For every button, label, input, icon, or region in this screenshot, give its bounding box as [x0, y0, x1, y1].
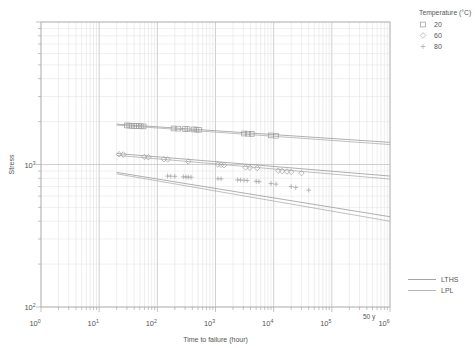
- data-point-diamond: [420, 33, 426, 39]
- y-tick-label: 103: [24, 160, 35, 170]
- y-axis-title: Stress: [8, 154, 15, 174]
- y-tick-label: 102: [24, 302, 35, 312]
- legend-title: Temperature (°C): [419, 9, 471, 17]
- legend-item-80[interactable]: 80: [434, 43, 442, 50]
- legend-item-60[interactable]: 60: [434, 32, 442, 39]
- series-20: [125, 123, 279, 138]
- chart-root: 100101102103104105106102103Time to failu…: [0, 0, 476, 348]
- x-tick-exponent: 6: [387, 318, 390, 324]
- x-tick-exponent: 0: [38, 318, 41, 324]
- y-tick-exponent: 2: [33, 302, 36, 308]
- x-tick-exponent: 3: [212, 318, 215, 324]
- x-tick-exponent: 1: [96, 318, 99, 324]
- temperature-legend[interactable]: Temperature (°C)206080: [419, 9, 471, 50]
- x-tick-label: 104: [262, 318, 273, 328]
- x-tick-label: 106: [378, 318, 389, 328]
- annotation-layer: 50 y: [363, 313, 376, 321]
- data-point-square: [274, 133, 279, 138]
- x-tick-label: 105: [320, 318, 331, 328]
- x-axis-title: Time to failure (hour): [183, 336, 248, 344]
- stress-vs-time-to-failure-chart: 100101102103104105106102103Time to failu…: [0, 0, 476, 348]
- x-tick-exponent: 2: [154, 318, 157, 324]
- legend-label-lths[interactable]: LTHS: [441, 276, 459, 283]
- x-tick-label: 102: [146, 318, 157, 328]
- series-80: [165, 174, 311, 193]
- x-tick-label: 100: [29, 318, 40, 328]
- data-point-square: [171, 126, 176, 131]
- x-tick-exponent: 5: [329, 318, 332, 324]
- data-point-square: [141, 124, 146, 129]
- x-tick-label: 101: [88, 318, 99, 328]
- legend-label-lpl[interactable]: LPL: [441, 287, 454, 294]
- y-tick-exponent: 3: [33, 160, 36, 166]
- annotation-50y: 50 y: [363, 313, 376, 321]
- x-tick-exponent: 4: [270, 318, 273, 324]
- legend-item-20[interactable]: 20: [434, 21, 442, 28]
- data-point-diamond: [275, 168, 281, 174]
- data-point-square: [421, 22, 426, 27]
- axis-labels-layer: 100101102103104105106102103Time to failu…: [8, 154, 390, 344]
- line-type-legend[interactable]: LTHSLPL: [408, 276, 459, 294]
- x-tick-label: 103: [204, 318, 215, 328]
